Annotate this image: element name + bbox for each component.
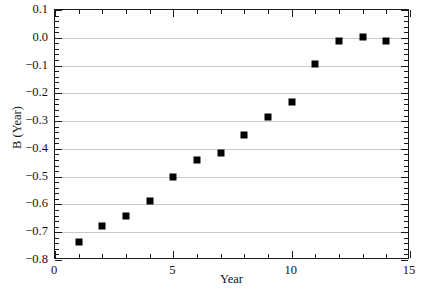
y-tick-major: [55, 66, 62, 67]
y-axis-ticks: [55, 10, 408, 258]
x-tick-minor: [386, 254, 387, 258]
x-tick-minor: [102, 254, 103, 258]
x-tick-major: [410, 10, 411, 17]
y-tick-minor: [404, 54, 408, 55]
gridlines: [55, 10, 408, 258]
y-tick-minor: [55, 82, 59, 83]
data-point: [359, 34, 366, 41]
y-tick-minor: [55, 143, 59, 144]
x-axis-title: Year: [54, 272, 409, 287]
y-tick-major: [401, 149, 408, 150]
y-tick-major: [401, 232, 408, 233]
y-tick-minor: [55, 182, 59, 183]
x-tick-minor: [197, 254, 198, 258]
y-tick-minor: [404, 132, 408, 133]
x-tick-minor: [363, 254, 364, 258]
y-tick-minor: [404, 249, 408, 250]
y-tick-major: [55, 204, 62, 205]
gridline: [55, 204, 408, 205]
gridline: [55, 121, 408, 122]
data-point: [170, 173, 177, 180]
y-tick-minor: [55, 171, 59, 172]
y-tick-minor: [55, 138, 59, 139]
y-tick-minor: [404, 160, 408, 161]
data-point: [123, 212, 130, 219]
y-tick-minor: [404, 216, 408, 217]
y-tick-minor: [404, 104, 408, 105]
y-tick-minor: [404, 238, 408, 239]
y-tick-minor: [55, 32, 59, 33]
y-tick-minor: [55, 99, 59, 100]
y-tick-minor: [404, 143, 408, 144]
x-tick-major: [55, 251, 56, 258]
y-tick-minor: [55, 249, 59, 250]
x-tick-minor: [339, 254, 340, 258]
x-tick-major: [292, 10, 293, 17]
y-tick-minor: [404, 221, 408, 222]
y-tick-minor: [404, 43, 408, 44]
y-tick-minor: [55, 132, 59, 133]
y-tick-minor: [404, 99, 408, 100]
y-tick-minor: [55, 238, 59, 239]
y-tick-label: −0.7: [10, 224, 48, 239]
y-tick-minor: [55, 60, 59, 61]
data-point: [146, 198, 153, 205]
x-tick-minor: [221, 10, 222, 14]
y-tick-minor: [404, 210, 408, 211]
y-tick-minor: [55, 54, 59, 55]
y-tick-minor: [55, 166, 59, 167]
x-tick-major: [55, 10, 56, 17]
x-tick-major: [173, 251, 174, 258]
scatter-chart-figure: 051015 0.10.0−0.1−0.2−0.3−0.4−0.5−0.6−0.…: [0, 0, 423, 292]
gridline: [55, 93, 408, 94]
x-tick-minor: [79, 10, 80, 14]
plot-area: [54, 9, 409, 259]
y-tick-minor: [55, 77, 59, 78]
y-tick-minor: [404, 127, 408, 128]
y-tick-major: [55, 121, 62, 122]
x-tick-minor: [268, 254, 269, 258]
y-tick-major: [401, 260, 408, 261]
y-tick-major: [55, 10, 62, 11]
y-tick-minor: [404, 49, 408, 50]
x-tick-minor: [221, 254, 222, 258]
y-tick-minor: [404, 27, 408, 28]
gridline: [55, 232, 408, 233]
x-tick-minor: [102, 10, 103, 14]
x-tick-minor: [244, 254, 245, 258]
y-tick-major: [401, 66, 408, 67]
x-tick-minor: [268, 10, 269, 14]
gridline: [55, 66, 408, 67]
y-tick-major: [401, 177, 408, 178]
data-point: [265, 113, 272, 120]
x-tick-major: [173, 10, 174, 17]
y-tick-label: 0.0: [10, 29, 48, 44]
y-tick-minor: [55, 116, 59, 117]
y-tick-major: [401, 121, 408, 122]
data-point: [241, 131, 248, 138]
y-tick-minor: [404, 21, 408, 22]
y-tick-minor: [404, 77, 408, 78]
y-tick-minor: [55, 199, 59, 200]
y-tick-minor: [55, 49, 59, 50]
x-tick-minor: [315, 254, 316, 258]
y-tick-minor: [404, 182, 408, 183]
x-tick-minor: [150, 10, 151, 14]
y-tick-major: [401, 93, 408, 94]
x-tick-minor: [339, 10, 340, 14]
data-point: [217, 149, 224, 156]
x-tick-minor: [150, 254, 151, 258]
y-tick-minor: [404, 32, 408, 33]
x-tick-major: [292, 251, 293, 258]
y-tick-minor: [404, 188, 408, 189]
y-tick-minor: [404, 243, 408, 244]
y-tick-minor: [55, 216, 59, 217]
y-tick-minor: [55, 27, 59, 28]
y-tick-minor: [404, 110, 408, 111]
gridline: [55, 149, 408, 150]
x-tick-minor: [197, 10, 198, 14]
y-tick-minor: [55, 43, 59, 44]
gridline: [55, 177, 408, 178]
y-tick-minor: [404, 16, 408, 17]
y-tick-major: [55, 232, 62, 233]
